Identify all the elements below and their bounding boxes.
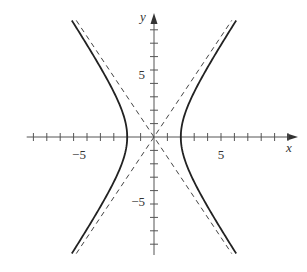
hyperbola-chart: x y −5 5 5 −5 [0,0,307,272]
y-tick-label-neg5: −5 [131,194,145,209]
y-axis-label: y [138,9,146,24]
axes [27,13,298,255]
x-tick-label-neg5: −5 [72,147,86,162]
y-axis-arrow-icon [151,13,158,24]
x-axis-label: x [285,140,292,155]
y-tick-label-5: 5 [139,67,146,82]
x-tick-label-5: 5 [218,147,225,162]
